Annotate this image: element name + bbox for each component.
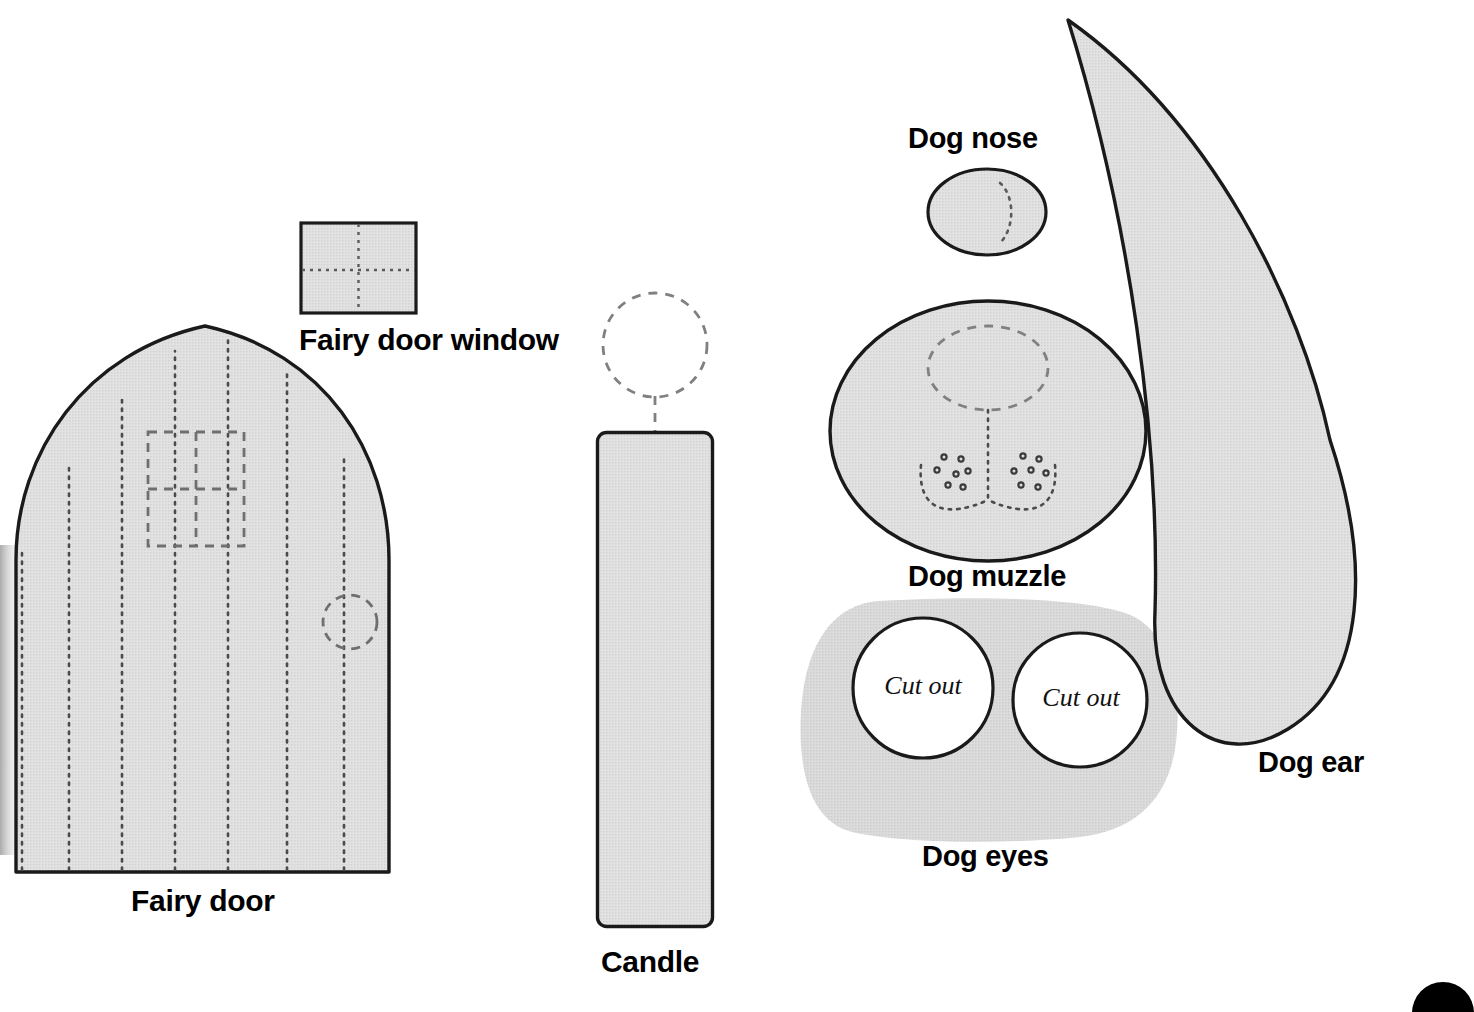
- candle-body: [598, 433, 713, 927]
- dog-nose-body: [928, 169, 1046, 255]
- template-sheet: Fairy door window Fairy door Candle Dog …: [0, 0, 1474, 1012]
- piece-fairy-door: [16, 326, 389, 872]
- label-dog-nose: Dog nose: [908, 124, 1038, 153]
- pattern-pieces-canvas: [0, 0, 1474, 1012]
- label-candle: Candle: [601, 947, 699, 977]
- fairy-door-window-body: [301, 223, 416, 313]
- piece-candle: [598, 293, 713, 927]
- piece-dog-eyes: [801, 598, 1178, 842]
- piece-dog-muzzle: [830, 301, 1146, 561]
- label-fairy-door: Fairy door: [131, 886, 275, 916]
- cutout-label-left-eye: Cut out: [858, 673, 988, 699]
- dog-muzzle-body: [830, 301, 1146, 561]
- piece-fairy-door-window: [301, 223, 416, 313]
- candle-flame-guide: [603, 293, 707, 397]
- label-fairy-door-window: Fairy door window: [299, 325, 559, 355]
- label-dog-eyes: Dog eyes: [922, 842, 1049, 871]
- corner-dot: [1412, 982, 1474, 1012]
- fairy-door-body: [16, 326, 389, 872]
- label-dog-ear: Dog ear: [1258, 748, 1364, 777]
- label-dog-muzzle: Dog muzzle: [908, 562, 1066, 591]
- cutout-label-right-eye: Cut out: [1016, 685, 1146, 711]
- piece-dog-nose: [928, 169, 1046, 255]
